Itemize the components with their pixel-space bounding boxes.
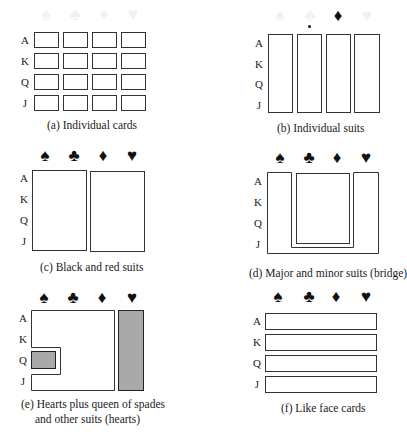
spade-icon: ♠	[268, 288, 288, 305]
diamond-icon: ♦	[326, 288, 346, 305]
row-label-ace: A	[252, 315, 262, 327]
rank-row-queens	[265, 355, 377, 372]
row-label-king: K	[252, 336, 262, 348]
caption-f: (f) Like face cards	[281, 401, 366, 415]
row-label-jack: J	[252, 378, 262, 390]
caption-e-line2: and other suits (hearts)	[35, 412, 140, 426]
rank-row-aces	[265, 313, 377, 330]
queen-of-spades-region	[31, 351, 56, 369]
caption-e-line1: (e) Hearts plus queen of spades	[21, 397, 165, 411]
row-label-queen: Q	[252, 357, 262, 369]
rank-row-jacks	[265, 376, 377, 393]
heart-icon: ♥	[356, 288, 376, 305]
hearts-region	[118, 310, 144, 391]
club-icon: ♣	[299, 288, 319, 305]
rank-row-kings	[265, 334, 377, 351]
